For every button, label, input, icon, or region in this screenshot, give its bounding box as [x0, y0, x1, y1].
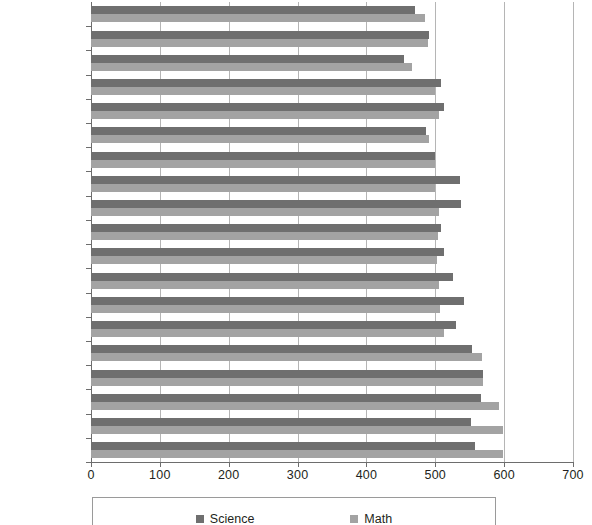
- x-axis-tick-label: 600: [474, 468, 534, 482]
- bar-science[interactable]: [91, 418, 471, 426]
- bar-math[interactable]: [91, 184, 435, 192]
- bar-science[interactable]: [91, 176, 460, 184]
- bar-math[interactable]: [91, 353, 482, 361]
- bar-math[interactable]: [91, 39, 428, 47]
- y-axis-tick: [86, 389, 91, 390]
- bar-math[interactable]: [91, 378, 483, 386]
- y-axis-tick: [86, 99, 91, 100]
- x-axis-tick: [91, 462, 92, 467]
- legend-item-math[interactable]: Math: [350, 512, 392, 525]
- bar-row: [91, 244, 573, 268]
- x-axis-tick-label: 700: [543, 468, 592, 482]
- bar-science[interactable]: [91, 31, 429, 39]
- x-axis-tick: [366, 462, 367, 467]
- x-axis-tick: [435, 462, 436, 467]
- x-axis-tick-label: 200: [199, 468, 259, 482]
- plot-area: [91, 2, 573, 462]
- x-axis-tick: [229, 462, 230, 467]
- bar-science[interactable]: [91, 297, 464, 305]
- bar-science[interactable]: [91, 321, 456, 329]
- y-axis-tick: [86, 414, 91, 415]
- bar-math[interactable]: [91, 256, 437, 264]
- bar-math[interactable]: [91, 135, 429, 143]
- bar-row: [91, 293, 573, 317]
- bar-row: [91, 268, 573, 292]
- x-axis-tick-label: 400: [336, 468, 396, 482]
- x-axis-tick: [504, 462, 505, 467]
- bar-row: [91, 317, 573, 341]
- bar-math[interactable]: [91, 281, 439, 289]
- bar-math[interactable]: [91, 305, 440, 313]
- bar-row: [91, 75, 573, 99]
- bar-math[interactable]: [91, 87, 435, 95]
- bar-science[interactable]: [91, 152, 435, 160]
- gridline: [573, 2, 574, 462]
- bar-science[interactable]: [91, 79, 441, 87]
- y-axis-tick: [86, 75, 91, 76]
- bar-math[interactable]: [91, 63, 412, 71]
- bar-science[interactable]: [91, 200, 461, 208]
- bar-row: [91, 123, 573, 147]
- x-axis-tick-label: 500: [405, 468, 465, 482]
- y-axis-tick: [86, 438, 91, 439]
- bar-math[interactable]: [91, 329, 444, 337]
- x-axis-tick: [573, 462, 574, 467]
- bar-science[interactable]: [91, 103, 444, 111]
- bar-math[interactable]: [91, 450, 503, 458]
- bar-science[interactable]: [91, 248, 444, 256]
- y-axis-tick: [86, 196, 91, 197]
- y-axis-tick: [86, 268, 91, 269]
- y-axis-tick: [86, 462, 91, 463]
- legend-swatch-math-icon: [350, 515, 358, 523]
- legend-label-science: Science: [210, 512, 254, 525]
- x-axis-tick: [160, 462, 161, 467]
- bar-row: [91, 99, 573, 123]
- y-axis-tick: [86, 317, 91, 318]
- bar-row: [91, 26, 573, 50]
- bar-science[interactable]: [91, 55, 404, 63]
- bar-row: [91, 50, 573, 74]
- bar-row: [91, 171, 573, 195]
- bar-science[interactable]: [91, 6, 415, 14]
- y-axis-tick: [86, 171, 91, 172]
- x-axis-tick: [298, 462, 299, 467]
- bar-row: [91, 365, 573, 389]
- y-axis-tick: [86, 341, 91, 342]
- bar-science[interactable]: [91, 442, 475, 450]
- bar-row: [91, 147, 573, 171]
- x-axis-tick-label: 100: [130, 468, 190, 482]
- bar-math[interactable]: [91, 232, 438, 240]
- y-axis-tick: [86, 220, 91, 221]
- bar-row: [91, 414, 573, 438]
- x-axis-line: [91, 462, 573, 463]
- x-axis-tick-label: 0: [61, 468, 121, 482]
- legend-swatch-science-icon: [196, 515, 204, 523]
- bar-science[interactable]: [91, 394, 481, 402]
- bar-row: [91, 220, 573, 244]
- y-axis-tick: [86, 293, 91, 294]
- legend-label-math: Math: [364, 512, 392, 525]
- bar-math[interactable]: [91, 402, 499, 410]
- bar-chart: 0100200300400500600700 SerbiaMaltaAustra…: [0, 0, 592, 525]
- bar-science[interactable]: [91, 127, 426, 135]
- bar-science[interactable]: [91, 273, 453, 281]
- y-axis-tick: [86, 26, 91, 27]
- bar-row: [91, 438, 573, 462]
- bar-science[interactable]: [91, 345, 472, 353]
- bar-math[interactable]: [91, 111, 439, 119]
- y-axis-tick: [86, 365, 91, 366]
- legend-item-science[interactable]: Science: [196, 512, 254, 525]
- chart-legend: Science Math: [92, 497, 496, 525]
- bar-science[interactable]: [91, 370, 483, 378]
- bar-math[interactable]: [91, 426, 503, 434]
- bar-row: [91, 389, 573, 413]
- y-axis-tick: [86, 50, 91, 51]
- bar-math[interactable]: [91, 208, 439, 216]
- y-axis-tick: [86, 123, 91, 124]
- bar-math[interactable]: [91, 14, 425, 22]
- y-axis-tick: [86, 147, 91, 148]
- bar-science[interactable]: [91, 224, 441, 232]
- bar-row: [91, 341, 573, 365]
- bar-row: [91, 196, 573, 220]
- bar-math[interactable]: [91, 160, 435, 168]
